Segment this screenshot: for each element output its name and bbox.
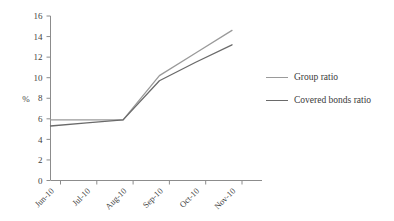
- y-axis-tick-label: 16: [34, 11, 44, 21]
- y-axis-tick-label: 12: [34, 52, 43, 62]
- y-axis-tick-label: 4: [38, 135, 43, 145]
- data-series-group: [51, 30, 233, 126]
- x-axis-tick-label: Sep-10: [141, 186, 165, 210]
- y-axis-tick-label: 6: [38, 114, 43, 124]
- x-axis-tick-labels: Jun-10Jul-10Aug-10Sep-10Oct-10Nov-10: [32, 186, 237, 211]
- legend-swatch-group-ratio: [266, 77, 288, 78]
- y-axis-tick-label: 10: [34, 73, 44, 83]
- y-axis-title: %: [22, 94, 30, 104]
- y-axis-tick-labels: 0246810121416: [34, 11, 44, 186]
- legend-label-covered-bonds-ratio: Covered bonds ratio: [294, 95, 371, 106]
- x-axis-tick-label: Oct-10: [177, 186, 201, 210]
- y-axis-tick-label: 8: [38, 93, 43, 103]
- legend-item-group-ratio: Group ratio: [266, 69, 392, 85]
- x-axis-tick-label: Jun-10: [32, 186, 55, 209]
- chart-legend: Group ratio Covered bonds ratio: [266, 69, 392, 115]
- x-axis-group: Jun-10Jul-10Aug-10Sep-10Oct-10Nov-10: [32, 181, 262, 212]
- series-line-group-ratio: [51, 30, 233, 119]
- y-axis-ticks: [47, 16, 51, 181]
- y-axis-tick-label: 14: [34, 32, 44, 42]
- y-axis-tick-label: 2: [38, 155, 43, 165]
- legend-label-group-ratio: Group ratio: [294, 72, 338, 83]
- x-axis-tick-label: Nov-10: [212, 186, 237, 211]
- x-axis-tick-label: Jul-10: [70, 186, 92, 208]
- y-axis-tick-label: 0: [38, 176, 43, 186]
- y-axis-group: 0246810121416 %: [22, 11, 50, 186]
- legend-swatch-covered-bonds-ratio: [266, 100, 288, 101]
- legend-item-covered-bonds-ratio: Covered bonds ratio: [266, 92, 392, 108]
- series-line-covered-bonds-ratio: [51, 45, 233, 126]
- x-axis-ticks: [61, 181, 243, 185]
- x-axis-tick-label: Aug-10: [103, 186, 128, 211]
- chart-container: 0246810121416 % Jun-10Jul-10Aug-10Sep-10…: [0, 0, 394, 221]
